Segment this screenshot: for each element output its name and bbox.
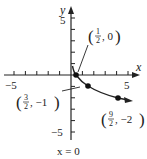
fraction-num: 9 bbox=[109, 110, 113, 119]
y-tick-5: 5 bbox=[60, 14, 66, 26]
x-axis bbox=[4, 71, 140, 78]
y-axis-arrow-icon bbox=[68, 6, 74, 14]
point-half-zero bbox=[73, 72, 79, 78]
point-rest: , 0 bbox=[102, 30, 114, 42]
point-label-nine-halves-neg2: ( 9 2 , −2 ) bbox=[101, 110, 145, 129]
x-tick-neg5: −5 bbox=[5, 79, 17, 91]
paren-open: ( bbox=[16, 93, 22, 112]
graph: y 5 x −5 5 −5 x = 0 ( 1 2 , 0 ) ( 3 2 , … bbox=[0, 0, 147, 159]
fraction-num: 3 bbox=[24, 93, 28, 102]
point-nine-halves-neg2 bbox=[115, 95, 121, 101]
point-rest: , −2 bbox=[115, 113, 132, 125]
paren-open: ( bbox=[88, 27, 94, 46]
curve bbox=[73, 66, 129, 100]
fraction-den: 2 bbox=[24, 102, 28, 111]
fraction-den: 2 bbox=[96, 36, 100, 45]
curve-arrow-icon bbox=[124, 97, 133, 103]
fraction-num: 1 bbox=[96, 27, 100, 36]
paren-close: ) bbox=[115, 27, 121, 46]
point-label-three-halves-neg1: ( 3 2 , −1 ) bbox=[16, 93, 60, 112]
point-three-halves-neg1 bbox=[85, 83, 91, 89]
paren-close: ) bbox=[54, 93, 60, 112]
x-tick-5: 5 bbox=[124, 79, 130, 91]
point-rest: , −1 bbox=[30, 96, 47, 108]
asymptote-label: x = 0 bbox=[57, 145, 80, 157]
fraction-den: 2 bbox=[109, 119, 113, 128]
paren-close: ) bbox=[139, 110, 145, 129]
point-label-half-zero: ( 1 2 , 0 ) bbox=[88, 27, 121, 46]
x-axis-label: x bbox=[135, 60, 142, 74]
paren-open: ( bbox=[101, 110, 107, 129]
y-tick-neg5: −5 bbox=[51, 126, 63, 138]
leader-line-p1 bbox=[78, 45, 88, 72]
